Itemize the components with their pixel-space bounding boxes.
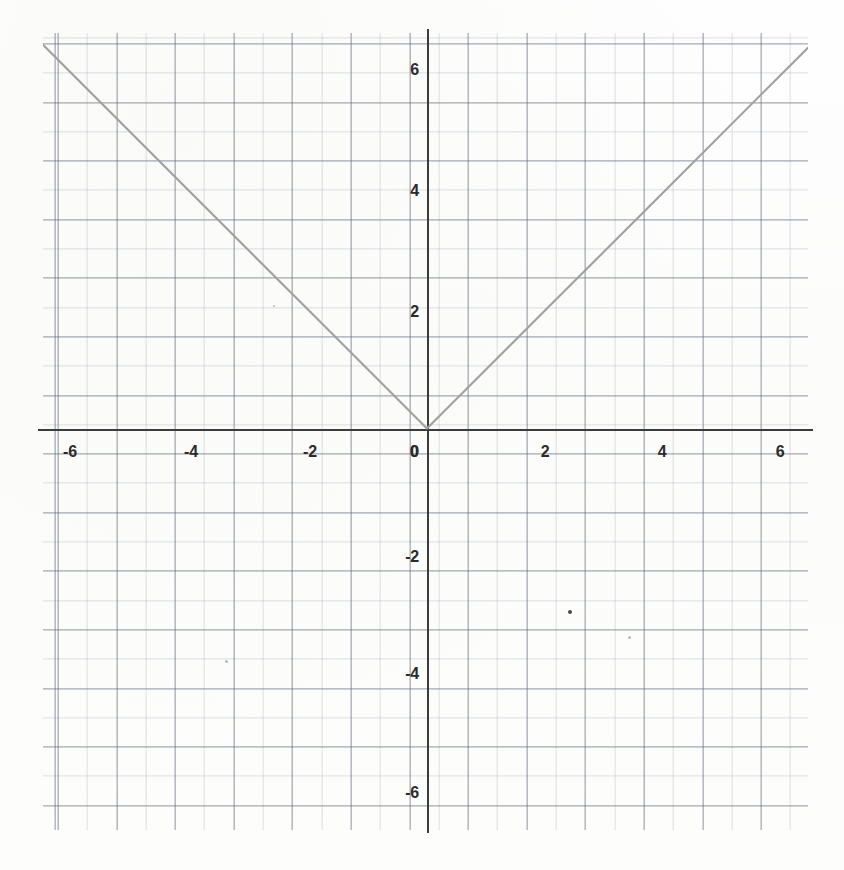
x-tick-label-6: 6 xyxy=(776,443,785,461)
x-tick-label--6: -6 xyxy=(63,443,77,461)
scan-speck-faint xyxy=(628,636,631,639)
scan-speck xyxy=(568,610,572,614)
plot-area xyxy=(43,33,808,830)
y-tick-label-4: 4 xyxy=(397,182,419,200)
scan-speck-faint-3 xyxy=(273,305,275,307)
absolute-value-curve xyxy=(43,45,808,429)
y-tick-label--4: -4 xyxy=(391,665,419,683)
graph-page: -6 -4 -2 0 2 4 6 6 4 2 -2 -4 -6 0 xyxy=(0,0,844,870)
x-tick-label-4: 4 xyxy=(658,443,667,461)
x-tick-label--2: -2 xyxy=(303,443,317,461)
y-tick-label--6: -6 xyxy=(391,784,419,802)
origin-label: 0 xyxy=(397,443,419,461)
y-tick-label-6: 6 xyxy=(397,61,419,79)
x-tick-label-2: 2 xyxy=(541,443,550,461)
y-tick-label--2: -2 xyxy=(391,548,419,566)
y-tick-label-2: 2 xyxy=(397,303,419,321)
function-curve-layer xyxy=(43,33,808,830)
scan-speck-faint-2 xyxy=(225,660,228,663)
x-tick-label--4: -4 xyxy=(184,443,198,461)
